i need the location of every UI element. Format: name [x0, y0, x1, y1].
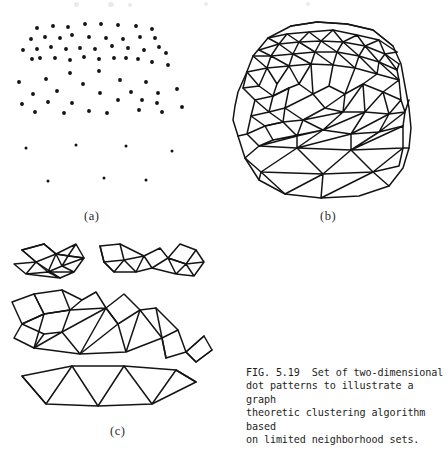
dot-pattern-point [81, 82, 85, 86]
dot-pattern-point [142, 48, 146, 52]
dot-pattern-point [125, 145, 128, 148]
dot-pattern-point [137, 108, 141, 112]
dot-pattern-point [87, 35, 91, 39]
dot-pattern-point [112, 56, 116, 60]
dot-pattern-point [33, 110, 37, 114]
dot-pattern-point [87, 109, 91, 113]
scan-speck [74, 2, 79, 7]
dot-pattern-point [116, 98, 120, 102]
dot-pattern-point [160, 110, 164, 114]
dot-pattern-point [166, 63, 170, 67]
dot-pattern-point [53, 56, 57, 60]
dot-pattern-point [153, 36, 157, 40]
panel-c-label: (c) [110, 424, 125, 439]
dot-pattern-point [97, 57, 101, 61]
dot-pattern-point [126, 46, 130, 50]
dot-pattern-point [68, 58, 72, 62]
neighborhood-graph-mesh [213, 8, 448, 208]
dot-pattern-point [150, 60, 154, 64]
scan-speck [108, 2, 114, 7]
dot-pattern-point [93, 47, 97, 51]
dot-pattern-point [17, 80, 21, 84]
dot-pattern-point [82, 55, 86, 59]
dot-pattern-point [156, 91, 160, 95]
dot-pattern-point [83, 22, 87, 26]
dot-pattern-point [29, 37, 33, 41]
dot-pattern-point [58, 36, 62, 40]
dot-pattern-point [98, 91, 102, 95]
dot-pattern-point [21, 48, 25, 52]
dot-pattern-point [175, 87, 179, 91]
panel-c-clusters [0, 228, 235, 423]
dot-pattern-scatter [0, 8, 215, 208]
dot-pattern-point [134, 24, 138, 28]
dot-pattern-point [144, 80, 148, 84]
dot-pattern-point [55, 89, 59, 93]
dot-pattern-point [78, 46, 82, 50]
dot-pattern-point [116, 23, 120, 27]
panel-b-label: (b) [320, 209, 336, 224]
dot-pattern-point [30, 57, 34, 61]
figure-caption: FIG. 5.19 Set of two-dimensional dot pat… [246, 366, 446, 446]
panel-b-neighborhood-graph [213, 8, 448, 208]
dot-pattern-point [99, 22, 103, 26]
figure-5-19: (a) [0, 0, 448, 456]
dot-pattern-point [68, 71, 72, 75]
dot-pattern-point [103, 177, 106, 180]
dot-pattern-point [66, 25, 70, 29]
cluster-row-1-left [14, 244, 84, 278]
dot-pattern-point [180, 105, 184, 109]
dot-pattern-point [157, 45, 161, 49]
dot-pattern-point [129, 90, 133, 94]
scan-speck [128, 3, 132, 7]
cluster-row-3 [22, 366, 196, 406]
scan-speck [306, 2, 310, 6]
dot-pattern-point [25, 147, 28, 150]
dot-pattern-point [70, 101, 74, 105]
dot-pattern-point [121, 37, 125, 41]
dot-pattern-point [104, 36, 108, 40]
cluster-graphs [0, 228, 235, 423]
cluster-row-2 [12, 290, 212, 362]
dot-pattern-point [150, 27, 154, 31]
dot-pattern-point [136, 57, 140, 61]
dot-pattern-point [35, 26, 39, 30]
dot-pattern-point [38, 56, 42, 60]
dot-pattern-point [43, 35, 47, 39]
dot-pattern-point [70, 33, 74, 37]
cluster-row-1-right [100, 244, 204, 276]
dot-pattern-point [145, 179, 148, 182]
dot-pattern-point [75, 144, 78, 147]
dot-pattern-point [64, 47, 68, 51]
dot-pattern-point [44, 77, 48, 81]
dot-pattern-point [31, 92, 35, 96]
dot-pattern-point [118, 78, 122, 82]
panel-a-dot-pattern [0, 8, 215, 208]
dot-pattern-point [138, 35, 142, 39]
dot-pattern-point [62, 111, 66, 115]
dot-pattern-point [20, 102, 24, 106]
dot-pattern-point [47, 180, 50, 183]
dot-pattern-point [49, 45, 53, 49]
dot-pattern-point [46, 100, 50, 104]
dot-pattern-point [155, 101, 159, 105]
dot-pattern-point [35, 47, 39, 51]
scan-speck [204, 2, 208, 6]
panel-a-label: (a) [84, 209, 99, 224]
dot-pattern-point [105, 111, 109, 115]
dot-pattern-point [97, 69, 101, 73]
dot-pattern-point [164, 51, 168, 55]
dot-pattern-point [171, 150, 174, 153]
dot-pattern-point [140, 98, 144, 102]
dot-pattern-point [124, 56, 128, 60]
dot-pattern-point [110, 44, 114, 48]
dot-pattern-point [51, 24, 55, 28]
